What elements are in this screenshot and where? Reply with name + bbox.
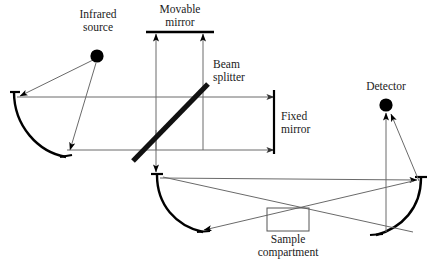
beam-sample-diagonal-down [163, 177, 413, 232]
beam-sample-upper-cross [160, 178, 417, 180]
label-sample-compartment: Sample compartment [238, 233, 338, 259]
lower-left-mirror-bottom-flat [197, 231, 210, 232]
label-movable-mirror: Movable mirror [145, 3, 215, 29]
detector-dot [379, 98, 392, 111]
beam-source-to-left-mirror [20, 60, 93, 96]
beam-splitter-plate [133, 84, 208, 161]
label-beam-splitter: Beam splitter [213, 58, 283, 84]
infrared-source-dot [90, 49, 103, 62]
beam-right-mirror-to-detector [391, 114, 419, 181]
label-infrared-source: Infrared source [63, 8, 133, 34]
figure-canvas: Infrared source Movable mirror Beam spli… [0, 0, 436, 264]
label-detector: Detector [356, 80, 416, 93]
right-mirror-bottom-flat [370, 234, 383, 235]
lower-left-focusing-mirror [157, 175, 203, 232]
beam-source-to-lower-left-mirror [70, 63, 96, 150]
right-focusing-mirror [376, 178, 421, 235]
optical-schematic-svg [0, 0, 436, 264]
left-collimating-mirror [14, 92, 66, 157]
sample-compartment-box [267, 208, 309, 231]
label-fixed-mirror: Fixed mirror [281, 110, 341, 136]
